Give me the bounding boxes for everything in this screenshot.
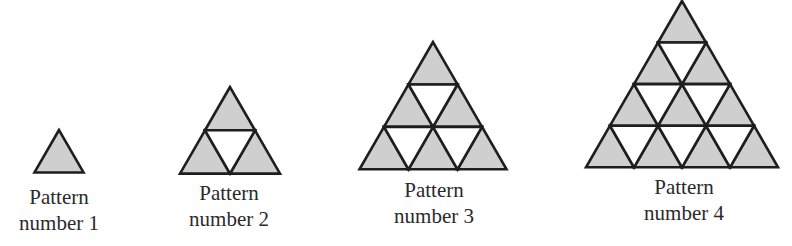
pattern-3-label: Pattern number 3 — [394, 177, 474, 229]
pattern-4-label: Pattern number 4 — [644, 174, 724, 226]
shaded-up-triangle — [35, 130, 84, 172]
pattern-2-label-line2: number 2 — [189, 206, 269, 232]
pattern-2-label-line1: Pattern — [189, 180, 269, 206]
pattern-1-label-line1: Pattern — [19, 184, 99, 210]
pattern-3-triangle — [360, 42, 507, 169]
pattern-4-label-line1: Pattern — [644, 174, 724, 200]
pattern-2-triangle — [180, 87, 280, 174]
pattern-3-label-line1: Pattern — [394, 177, 474, 203]
pattern-1-label: Pattern number 1 — [19, 184, 99, 236]
shaded-up-triangle — [409, 42, 458, 84]
pattern-1-triangle — [35, 130, 84, 172]
shaded-up-triangle — [658, 1, 706, 43]
pattern-4-label-line2: number 4 — [644, 200, 724, 226]
pattern-3-label-line2: number 3 — [394, 203, 474, 229]
pattern-1-label-line2: number 1 — [19, 210, 99, 236]
pattern-2-label: Pattern number 2 — [189, 180, 269, 232]
shaded-up-triangle — [205, 87, 255, 130]
pattern-4-triangle — [586, 1, 778, 167]
